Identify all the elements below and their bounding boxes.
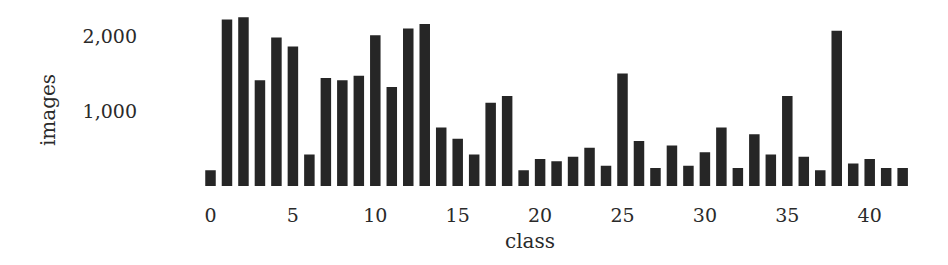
bar-class-34 xyxy=(766,155,777,187)
bar-class-4 xyxy=(271,38,282,187)
bar-class-39 xyxy=(848,164,859,187)
x-tick-label: 0 xyxy=(204,204,216,226)
bar-class-21 xyxy=(551,161,562,186)
bar-class-11 xyxy=(387,87,398,186)
bar-class-9 xyxy=(354,76,365,186)
bar-class-22 xyxy=(568,157,579,186)
x-tick-label: 40 xyxy=(858,204,882,226)
x-tick-label: 5 xyxy=(287,204,299,226)
bar-class-32 xyxy=(733,168,744,186)
bar-class-30 xyxy=(700,152,711,186)
bar-class-8 xyxy=(337,80,348,186)
bar-class-10 xyxy=(370,35,381,186)
bar-class-16 xyxy=(469,155,480,187)
bar-class-35 xyxy=(782,96,793,186)
bar-class-2 xyxy=(238,17,249,186)
bar-class-1 xyxy=(222,20,233,187)
bar-class-33 xyxy=(749,134,760,186)
bar-class-28 xyxy=(667,146,678,187)
bar-class-19 xyxy=(518,170,529,186)
bar-class-42 xyxy=(897,168,908,186)
bar-class-23 xyxy=(584,148,595,186)
bar-class-3 xyxy=(255,80,266,186)
bar-class-26 xyxy=(634,141,645,186)
bar-class-7 xyxy=(321,78,332,186)
x-tick-label: 35 xyxy=(775,204,799,226)
bar-class-17 xyxy=(485,103,496,186)
bar-class-0 xyxy=(205,170,216,186)
bar-class-6 xyxy=(304,155,315,187)
bar-class-13 xyxy=(419,24,430,186)
bar-class-31 xyxy=(716,128,727,187)
bar-class-40 xyxy=(864,159,875,186)
x-tick-label: 10 xyxy=(363,204,387,226)
bar-class-18 xyxy=(502,96,513,186)
bar-class-29 xyxy=(683,166,694,186)
bar-class-27 xyxy=(650,168,661,186)
bar-class-14 xyxy=(436,128,447,187)
bar-class-37 xyxy=(815,170,826,186)
bar-class-38 xyxy=(831,31,842,186)
x-axis-title: class xyxy=(505,229,555,253)
bar-chart: 1,0002,000 images 0510152025303540 class xyxy=(0,0,948,265)
bar-class-36 xyxy=(799,157,810,186)
y-tick-label: 2,000 xyxy=(83,25,137,47)
y-axis-ticks: 1,0002,000 xyxy=(83,25,137,122)
x-axis-ticks: 0510152025303540 xyxy=(204,204,881,226)
bar-class-24 xyxy=(601,166,612,186)
y-tick-label: 1,000 xyxy=(83,100,137,122)
bar-class-15 xyxy=(452,139,463,186)
x-tick-label: 15 xyxy=(446,204,470,226)
bars xyxy=(205,17,908,186)
bar-class-25 xyxy=(617,74,628,187)
bar-class-12 xyxy=(403,29,414,187)
bar-class-20 xyxy=(535,159,546,186)
x-tick-label: 30 xyxy=(693,204,717,226)
x-tick-label: 20 xyxy=(528,204,552,226)
bar-class-5 xyxy=(288,47,299,187)
bar-class-41 xyxy=(881,168,892,186)
y-axis-title: images xyxy=(36,74,60,146)
x-tick-label: 25 xyxy=(610,204,634,226)
